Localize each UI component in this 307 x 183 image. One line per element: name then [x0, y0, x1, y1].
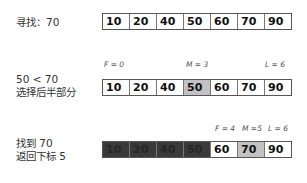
array-cell-discarded: 40 — [157, 142, 184, 157]
array-cell-found: 70 — [238, 142, 265, 157]
search-target-label: 寻找：70 — [16, 16, 59, 29]
pointer-mid: M =5 — [242, 124, 262, 133]
array-cell: 40 — [157, 14, 184, 29]
array-cell: 90 — [265, 142, 291, 157]
array-cell: 40 — [157, 80, 184, 95]
array-row-2: 10 20 40 50 60 70 90 — [102, 79, 292, 96]
choose-half-label: 选择后半部分 — [16, 86, 76, 99]
found-label: 找到 70 — [16, 137, 53, 150]
pointer-first: F = 0 — [104, 60, 124, 69]
compare-label: 50 < 70 — [16, 73, 58, 86]
array-cell-discarded: 10 — [103, 142, 130, 157]
array-cell-discarded: 50 — [184, 142, 211, 157]
array-cell: 70 — [238, 80, 265, 95]
array-cell: 60 — [211, 14, 238, 29]
pointer-last: L = 6 — [268, 124, 288, 133]
array-row-1: 10 20 40 50 60 70 90 — [102, 13, 292, 30]
array-cell: 10 — [103, 14, 130, 29]
array-cell: 20 — [130, 14, 157, 29]
array-cell: 60 — [211, 80, 238, 95]
array-cell: 90 — [265, 14, 291, 29]
array-cell: 70 — [238, 14, 265, 29]
array-cell: 50 — [184, 14, 211, 29]
array-cell: 90 — [265, 80, 291, 95]
pointer-first: F = 4 — [215, 124, 235, 133]
array-cell: 60 — [211, 142, 238, 157]
pointer-last: L = 6 — [265, 60, 285, 69]
array-row-3: 10 20 40 50 60 70 90 — [102, 141, 292, 158]
return-index-label: 返回下标 5 — [16, 150, 66, 163]
pointer-mid: M = 3 — [186, 60, 208, 69]
array-cell: 20 — [130, 80, 157, 95]
array-cell-discarded: 20 — [130, 142, 157, 157]
array-cell-mid: 50 — [184, 80, 211, 95]
array-cell: 10 — [103, 80, 130, 95]
